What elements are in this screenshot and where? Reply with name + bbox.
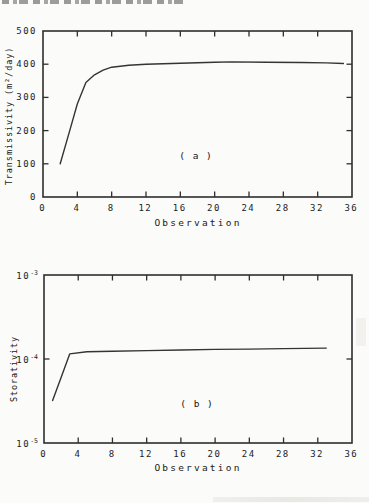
y-tick-label: 10-4 [16, 354, 38, 365]
data-curve [60, 62, 343, 164]
plot-frame [43, 31, 352, 197]
chart-b-x-axis-title: Observation [154, 462, 241, 473]
axis-ticks [43, 31, 352, 197]
x-tick-label: 28 [276, 450, 290, 459]
x-tick-label: 24 [242, 450, 256, 459]
chart-b-y-axis-title: Storativity [9, 336, 19, 402]
chart-a-x-axis-title: Observation [154, 217, 241, 228]
axis-ticks [44, 275, 352, 443]
scan-smudge-artifact [356, 318, 366, 346]
x-tick-label: 20 [207, 450, 221, 459]
chart-a-plot-svg [41, 29, 354, 199]
x-tick-label: 36 [344, 450, 358, 459]
x-tick-label: 28 [276, 204, 290, 213]
x-tick-label: 8 [109, 450, 116, 459]
x-tick-label: 20 [207, 204, 221, 213]
x-tick-label: 0 [39, 204, 46, 213]
cropped-header-text-artifact [2, 0, 188, 4]
y-tick-label: 10-3 [16, 270, 38, 281]
y-tick-label: 500 [16, 27, 37, 36]
x-tick-label: 4 [74, 204, 81, 213]
x-tick-label: 36 [344, 204, 358, 213]
x-tick-label: 32 [310, 204, 324, 213]
y-tick-label: 400 [16, 60, 37, 69]
y-tick-label: 300 [16, 93, 37, 102]
x-tick-label: 12 [138, 204, 152, 213]
x-tick-label: 16 [173, 204, 187, 213]
x-tick-label: 4 [74, 450, 81, 459]
x-tick-label: 24 [241, 204, 255, 213]
plot-frame [44, 275, 352, 443]
y-tick-label: 0 [30, 193, 37, 202]
data-curve [53, 348, 327, 401]
x-tick-label: 8 [108, 204, 115, 213]
scan-smudge-artifact [213, 497, 369, 502]
y-tick-label: 200 [16, 126, 37, 135]
y-tick-label: 10-5 [16, 438, 38, 449]
x-tick-label: 16 [173, 450, 187, 459]
chart-b-plot-svg [42, 273, 354, 445]
x-tick-label: 32 [310, 450, 324, 459]
x-tick-label: 0 [40, 450, 47, 459]
y-tick-label: 100 [16, 159, 37, 168]
x-tick-label: 12 [139, 450, 153, 459]
chart-a-y-axis-title: Transmissivity (m²/day) [4, 47, 14, 185]
scanned-figure-page: Transmissivity (m²/day) Observation ( a … [0, 0, 369, 503]
